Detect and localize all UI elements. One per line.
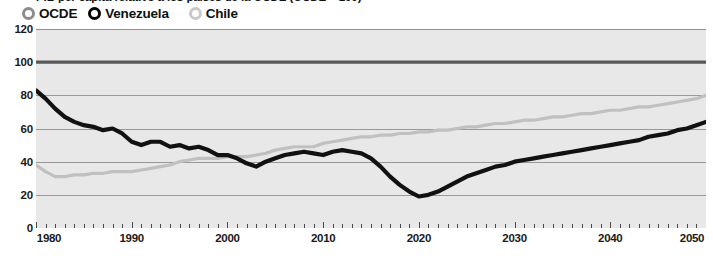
y-axis-tick-label: 120: [3, 23, 33, 35]
chart-title: PIB per cápita relativo a los países de …: [36, 0, 361, 3]
legend-label-chile: Chile: [206, 7, 238, 20]
legend-label-ocde: OCDE: [39, 7, 77, 20]
legend-marker-circle-icon: [189, 7, 202, 20]
x-axis-tick-label: 2040: [598, 232, 622, 244]
chart-container: PIB per cápita relativo a los países de …: [0, 0, 713, 260]
plot-svg: [36, 29, 706, 228]
x-axis-tick-label: 2020: [407, 232, 431, 244]
y-axis-tick-label: 20: [3, 189, 33, 201]
legend-item-chile[interactable]: Chile: [189, 7, 238, 20]
x-axis-tick-label: 1990: [120, 232, 144, 244]
plot-area: [36, 29, 706, 228]
x-axis-tick-label: 2050: [680, 232, 704, 244]
x-axis-ticks: [37, 222, 707, 228]
series-line-chile: [36, 95, 706, 176]
x-axis-tick-label: 1980: [37, 232, 61, 244]
legend-item-venezuela[interactable]: Venezuela: [88, 7, 169, 20]
chart-legend: OCDE Venezuela Chile: [22, 4, 238, 23]
y-axis-tick-label: 60: [3, 123, 33, 135]
series-line-venezuela: [36, 90, 706, 196]
y-axis: 020406080100120: [0, 0, 33, 260]
x-axis-tick-label: 2010: [311, 232, 335, 244]
legend-label-venezuela: Venezuela: [105, 7, 169, 20]
y-axis-tick-label: 80: [3, 89, 33, 101]
y-axis-tick-label: 100: [3, 56, 33, 68]
x-axis-tick-label: 2030: [502, 232, 526, 244]
y-axis-tick-label: 0: [3, 222, 33, 234]
y-axis-tick-label: 40: [3, 156, 33, 168]
legend-marker-circle-icon: [88, 7, 101, 20]
x-axis-tick-label: 2000: [215, 232, 239, 244]
